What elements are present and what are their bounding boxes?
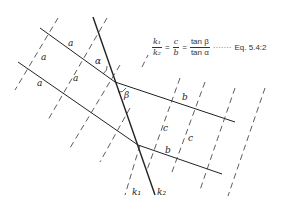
label-a: a	[37, 79, 42, 88]
alpha-arc	[103, 66, 107, 74]
fraction-k: k₁ k₂	[152, 38, 162, 57]
eq-k1: k₁	[152, 38, 162, 48]
eq-b: b	[173, 48, 178, 57]
eq-c: c	[173, 38, 179, 48]
label-a: a	[41, 53, 46, 62]
label-alpha: α	[95, 57, 101, 66]
refraction-diagram: a a a a α β b b c c k₁ k₂ k₁ k₂ = c b = …	[0, 0, 285, 207]
label-c: c	[188, 134, 193, 143]
flow-line-lower	[18, 62, 222, 174]
boundary-line	[93, 17, 155, 195]
eq-tan-beta: tan β	[190, 38, 210, 48]
eq-k2: k₂	[153, 48, 161, 57]
equation-reference: Eq. 5.4:2	[235, 43, 267, 52]
label-b: b	[182, 93, 188, 102]
diagram-lines	[0, 0, 285, 207]
label-k2: k₂	[157, 188, 166, 197]
equation: k₁ k₂ = c b = tan β tan α ······· Eq. 5.…	[152, 38, 267, 57]
equipotential-lines-left	[15, 18, 140, 195]
fraction-tan: tan β tan α	[190, 38, 210, 57]
equals-sign: =	[182, 43, 187, 52]
equals-sign: =	[165, 43, 170, 52]
equipotential-lines-right	[142, 55, 265, 196]
label-k1: k₁	[132, 188, 141, 197]
fraction-cb: c b	[173, 38, 179, 57]
eq-tan-alpha: tan α	[191, 48, 209, 57]
label-a: a	[73, 74, 78, 83]
label-c: c	[163, 124, 168, 133]
label-a: a	[68, 39, 73, 48]
label-beta: β	[124, 91, 129, 100]
label-b: b	[165, 146, 171, 155]
leader-dots: ·······	[213, 43, 232, 52]
